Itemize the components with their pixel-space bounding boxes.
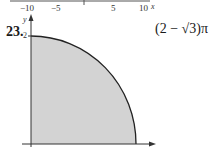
y-tick-label-2: 2 xyxy=(23,31,27,40)
tick-label-5: 5 xyxy=(111,3,116,13)
tick-label-10: 10 xyxy=(139,3,148,13)
x-axis-arrow-icon xyxy=(149,142,156,147)
y-axis-arrow-icon xyxy=(29,14,34,21)
answer-text: (2 − √3)π xyxy=(155,21,208,37)
y-axis-label: y xyxy=(23,15,27,24)
shaded-region xyxy=(31,36,136,144)
previous-x-axis-label: x xyxy=(151,2,155,11)
tick-label-neg5: −5 xyxy=(51,3,61,13)
problem-number: 23. xyxy=(6,24,24,40)
tick-label-neg10: −10 xyxy=(20,3,34,13)
